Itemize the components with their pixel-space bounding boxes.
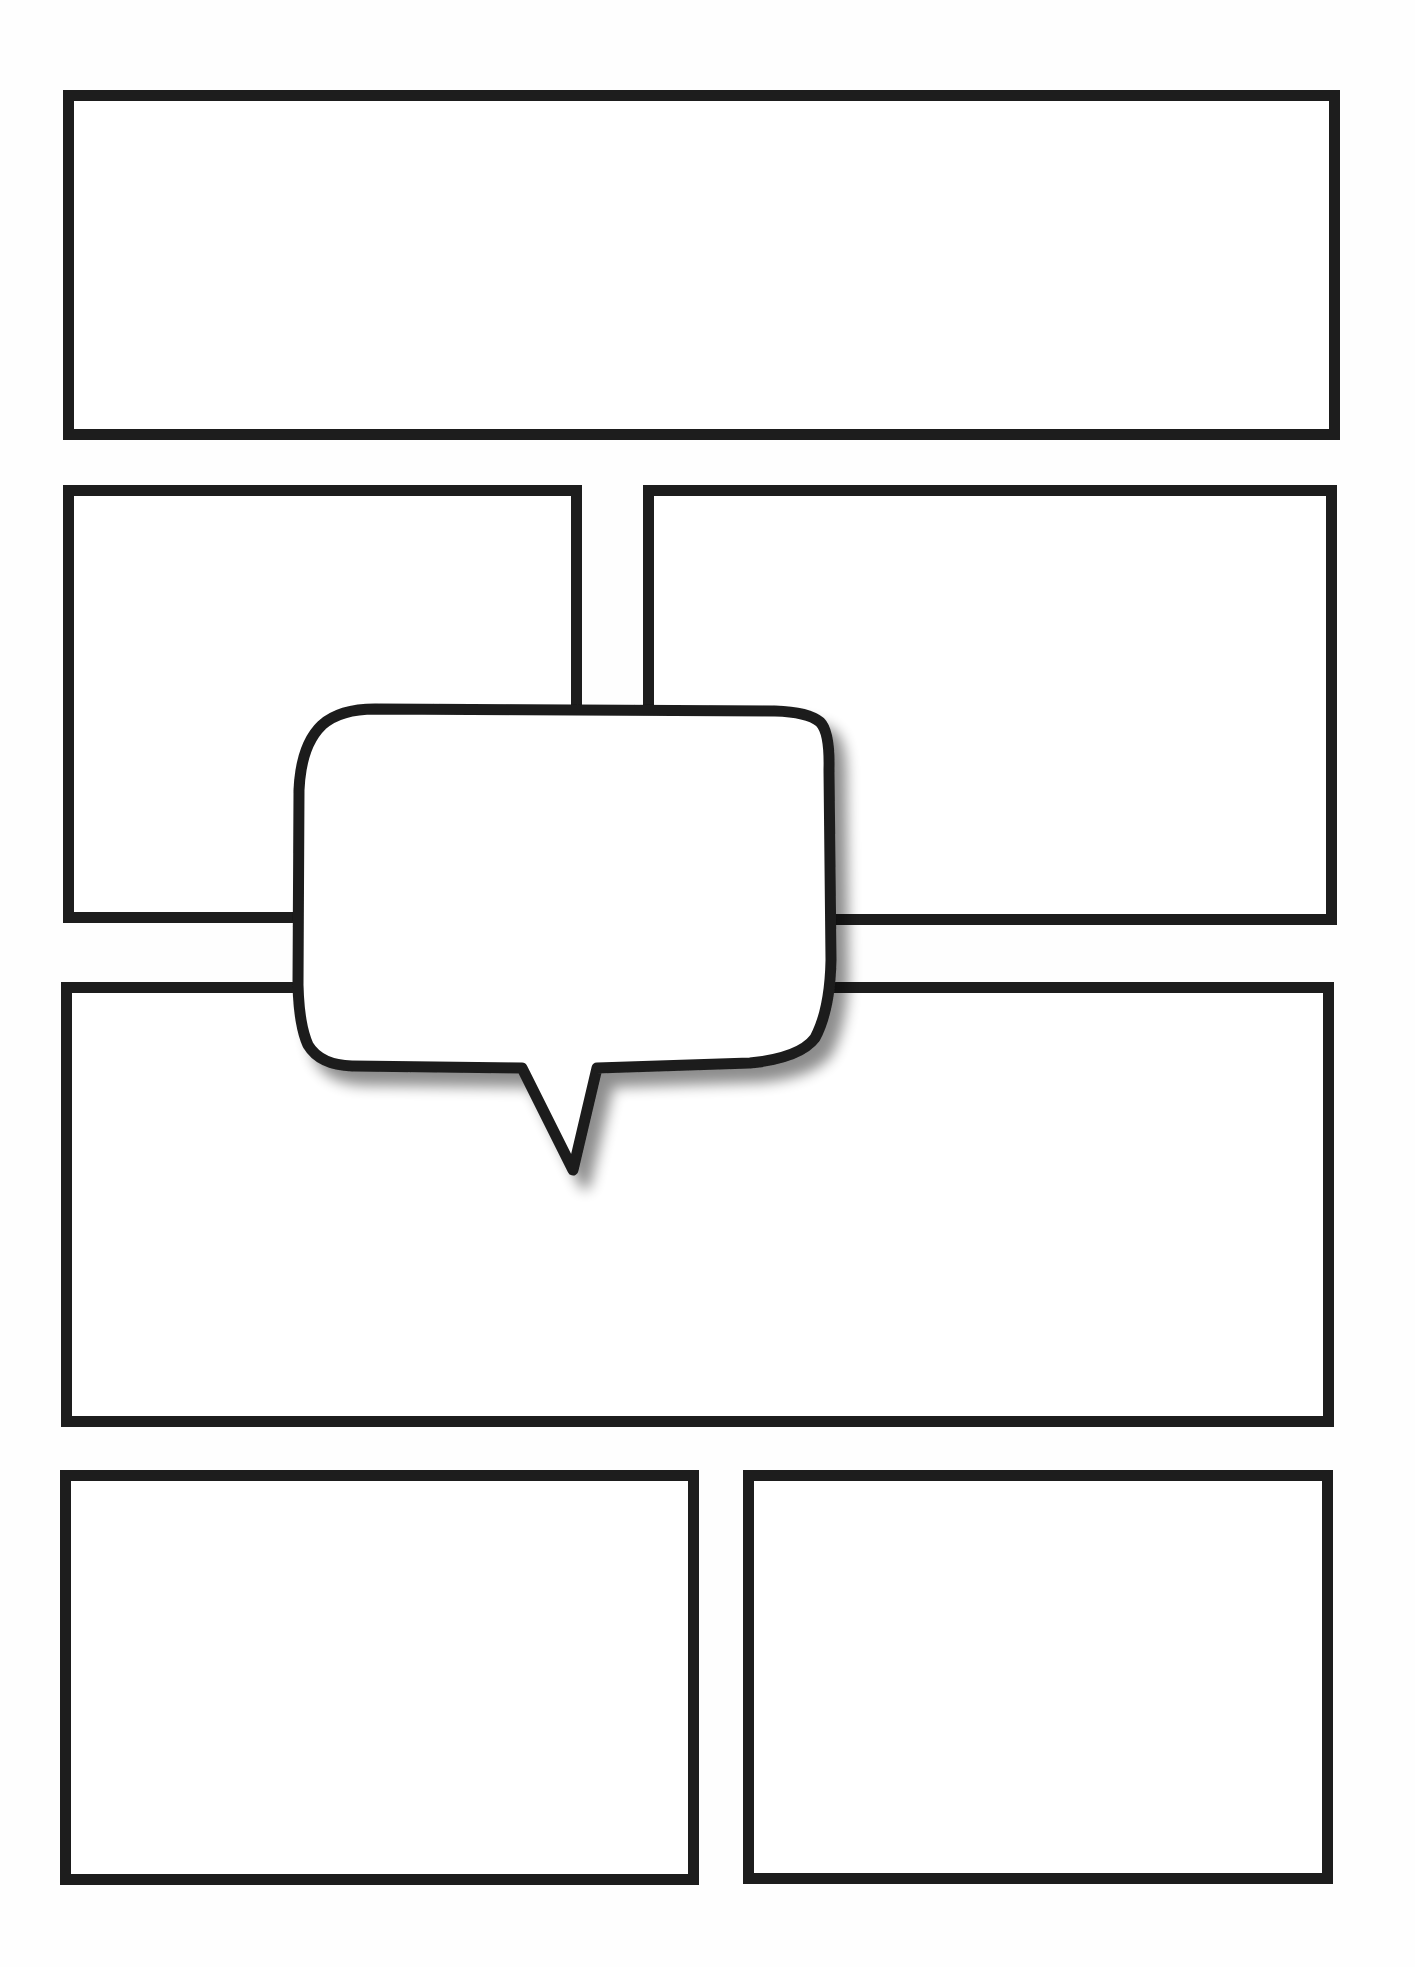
comic-page: [0, 0, 1415, 1967]
comic-panel-1[interactable]: [63, 90, 1340, 440]
comic-panel-6[interactable]: [743, 1470, 1333, 1884]
comic-panel-5[interactable]: [60, 1470, 699, 1885]
